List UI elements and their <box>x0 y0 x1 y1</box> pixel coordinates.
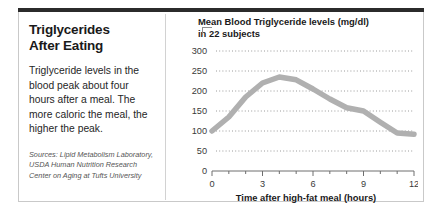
y-tick-label: 200 <box>192 86 207 96</box>
chart-panel: Mean Blood Triglyceride levels (mg/dl) i… <box>176 16 418 198</box>
y-tick-label: 0 <box>202 166 207 176</box>
x-tick-label: 0 <box>209 179 214 189</box>
x-tick-label: 9 <box>361 179 366 189</box>
x-tick-label: 3 <box>260 179 265 189</box>
infographic-card: Triglycerides After Eating Triglyceride … <box>0 0 442 216</box>
y-tick-label: 250 <box>192 66 207 76</box>
x-axis-title: Time after high-fat meal (hours) <box>176 192 418 203</box>
x-axis-ticks <box>212 171 414 176</box>
page-title: Triglycerides After Eating <box>29 22 157 55</box>
panel-divider <box>165 14 166 200</box>
x-tick-label: 6 <box>310 179 315 189</box>
headline-line-1: Triglycerides <box>29 22 157 38</box>
y-tick-label: 300 <box>192 46 207 56</box>
y-tick-label: 150 <box>192 106 207 116</box>
y-tick-label: 100 <box>192 126 207 136</box>
line-chart-svg: 300250200150100500 036912 <box>176 43 418 193</box>
chart-title-line-1: Mean Blood Triglyceride levels (mg/dl) <box>198 16 418 28</box>
y-axis-tick-labels: 300250200150100500 <box>192 46 207 176</box>
y-tick-label: 50 <box>197 146 207 156</box>
x-axis-tick-labels: 036912 <box>209 179 418 189</box>
x-tick-label: 12 <box>409 179 418 189</box>
headline-line-2: After Eating <box>29 38 157 54</box>
chart-title-line-2: in 22 subjects <box>198 28 418 40</box>
text-panel: Triglycerides After Eating Triglyceride … <box>29 22 157 181</box>
data-series-line <box>212 77 414 134</box>
plot-area: 300250200150100500 036912 <box>176 43 418 193</box>
legend-bracket-icon <box>202 27 212 35</box>
sources-credit: Sources: Lipid Metabolism Laboratory, US… <box>29 150 157 181</box>
description-text: Triglyceride levels in the blood peak ab… <box>29 64 157 137</box>
chart-title: Mean Blood Triglyceride levels (mg/dl) i… <box>198 16 418 40</box>
